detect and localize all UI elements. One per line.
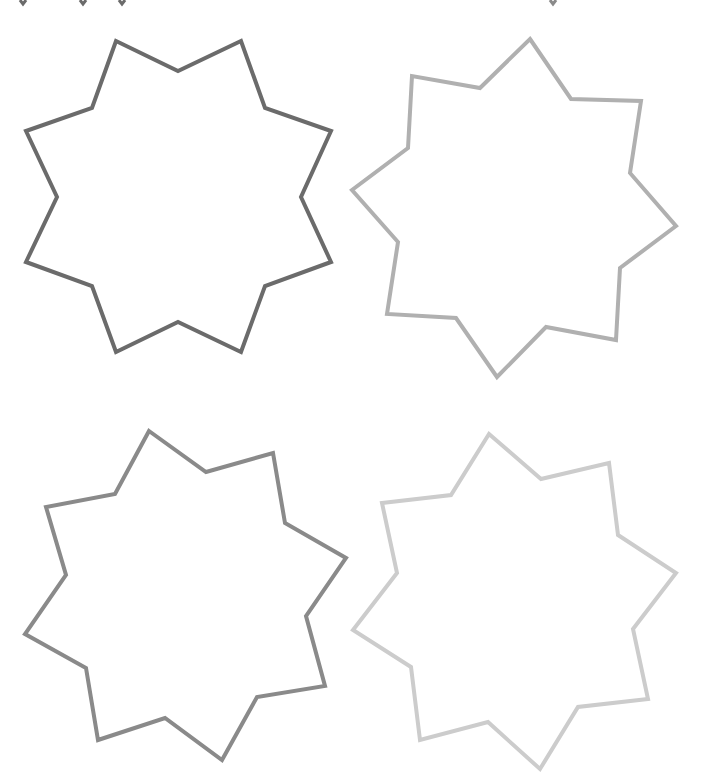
star-medium-gray-rotated	[25, 431, 346, 760]
cut-off-vertex-fragment	[550, 0, 556, 4]
star-light-gray-rotated	[352, 39, 676, 377]
cut-off-vertex-fragment	[80, 0, 86, 4]
star-dark-gray	[26, 41, 331, 352]
cut-off-vertex-fragment	[20, 0, 26, 4]
cut-off-vertex-fragment	[119, 0, 125, 4]
edge-fragments	[20, 0, 556, 4]
star-diagram-canvas	[0, 0, 711, 783]
star-pale-gray-rotated	[353, 434, 676, 769]
